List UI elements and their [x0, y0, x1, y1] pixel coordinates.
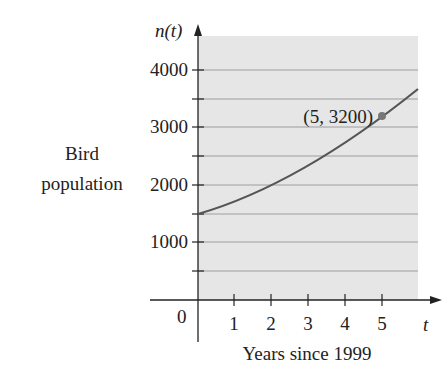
x-tick-label: 3: [303, 313, 313, 334]
y-axis-title-line2: population: [41, 173, 123, 194]
y-axis-title-line1: Bird: [65, 143, 99, 164]
y-tick-label: 3000: [150, 116, 188, 137]
y-axis-variable: n(t): [155, 20, 182, 42]
y-axis-arrow-icon: [194, 24, 202, 36]
bird-population-chart: 1000 2000 3000 4000 1 2 3 4 5 0 t n(t) Y…: [0, 0, 448, 384]
y-tick-label: 2000: [150, 174, 188, 195]
point-annotation: (5, 3200): [303, 106, 373, 128]
x-tick-label: 1: [229, 313, 239, 334]
x-tick-label: 4: [340, 313, 350, 334]
x-axis-arrow-icon: [430, 296, 442, 304]
y-tick-label: 1000: [150, 231, 188, 252]
x-axis-title: Years since 1999: [243, 343, 372, 364]
x-tick-label: 5: [377, 313, 387, 334]
x-tick-label: 2: [266, 313, 276, 334]
y-tick-label: 4000: [150, 59, 188, 80]
origin-label: 0: [177, 306, 187, 327]
x-axis-variable: t: [423, 314, 429, 335]
plot-area: [198, 36, 418, 300]
data-point: [378, 112, 386, 120]
